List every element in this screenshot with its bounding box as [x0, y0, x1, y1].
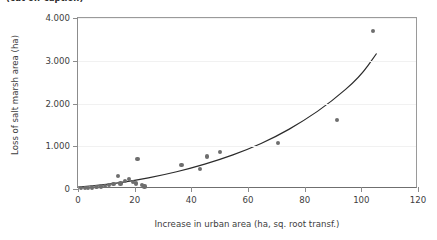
scatter-point	[135, 157, 139, 161]
scatter-point	[179, 163, 183, 167]
y-axis-tick-label: 4.000	[45, 13, 70, 23]
scatter-point	[198, 167, 202, 171]
y-axis-tick-label: 0	[65, 184, 70, 194]
x-axis-tick	[135, 187, 136, 192]
x-axis-tick-label: 20	[129, 195, 140, 205]
fitted-curve	[78, 18, 416, 187]
scatter-point	[218, 150, 222, 154]
plot-area: 01.0002.0003.0004.000020406080100120	[77, 17, 417, 188]
y-axis-tick	[73, 104, 78, 105]
x-axis-tick-label: 120	[410, 195, 426, 205]
y-axis-tick	[73, 61, 78, 62]
gridline-horizontal	[78, 146, 416, 147]
x-axis-tick	[248, 187, 249, 192]
scatter-point	[94, 185, 98, 189]
gridline-horizontal	[78, 104, 416, 105]
y-axis-tick-label: 2.000	[45, 99, 70, 109]
x-axis-tick-label: 80	[299, 195, 310, 205]
gridline-horizontal	[78, 61, 416, 62]
x-axis-tick-label: 60	[243, 195, 254, 205]
scatter-point	[118, 181, 122, 185]
scatter-point	[134, 181, 138, 185]
x-axis-tick-label: 0	[75, 195, 80, 205]
y-axis-tick-label: 3.000	[45, 56, 70, 66]
x-axis-tick	[305, 187, 306, 192]
scatter-point	[116, 174, 120, 178]
y-axis-tick	[73, 18, 78, 19]
scatter-point	[371, 29, 375, 33]
y-axis-tick	[73, 146, 78, 147]
scatter-point	[111, 182, 115, 186]
scatter-point	[276, 141, 280, 145]
x-axis-tick	[418, 187, 419, 192]
scatter-point	[335, 118, 339, 122]
x-axis-tick-label: 40	[186, 195, 197, 205]
y-axis-tick-label: 1.000	[45, 141, 70, 151]
scatter-point	[142, 184, 146, 188]
x-axis-tick-label: 100	[353, 195, 369, 205]
gridline-horizontal	[78, 18, 416, 19]
x-axis-title: Increase in urban area (ha, sq. root tra…	[77, 219, 417, 229]
scatter-point	[205, 154, 209, 158]
figure-caption-strip: (cut off caption)	[0, 0, 437, 5]
chart-figure: (cut off caption) Loss of salt marsh are…	[0, 0, 437, 240]
y-axis-title: Loss of salt marsh area (ha)	[8, 0, 22, 190]
x-axis-tick	[191, 187, 192, 192]
x-axis-tick	[361, 187, 362, 192]
